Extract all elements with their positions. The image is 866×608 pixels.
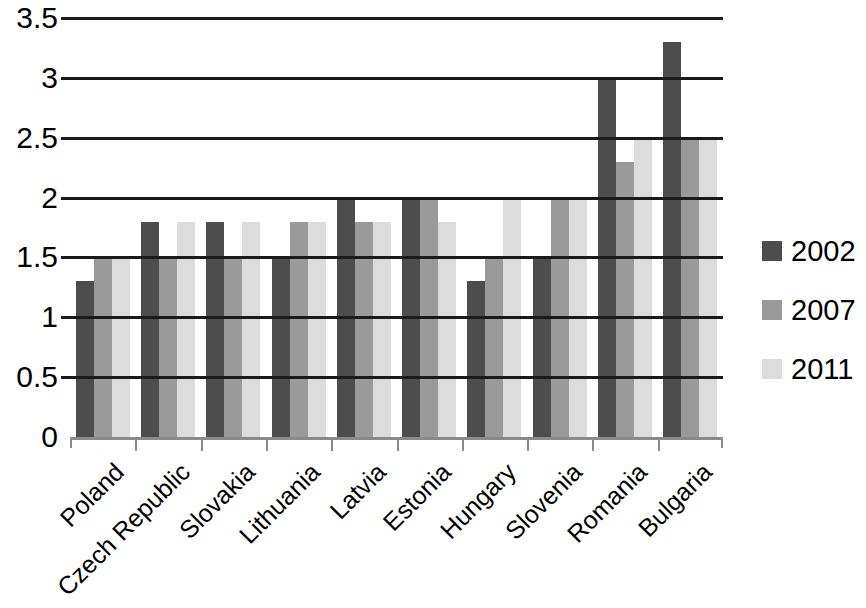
bar[interactable]	[224, 257, 242, 437]
y-axis-tick-label: 0.5	[0, 362, 58, 392]
x-axis-tick	[135, 440, 137, 451]
x-axis-tick	[266, 440, 268, 451]
x-axis-tick	[397, 440, 399, 451]
y-axis-tick-label: 3	[0, 63, 58, 93]
y-axis-tick-label: 2.5	[0, 123, 58, 153]
bar-chart: 3.532.521.510.50 PolandCzech RepublicSlo…	[0, 0, 866, 608]
x-axis-tick	[462, 440, 464, 451]
y-axis-tick-labels: 3.532.521.510.50	[0, 0, 58, 460]
bars-layer	[70, 18, 723, 437]
bar[interactable]	[206, 222, 224, 437]
bar[interactable]	[177, 222, 195, 437]
y-axis-tick-label: 2	[0, 183, 58, 213]
y-axis-tick-label: 1.5	[0, 242, 58, 272]
bar[interactable]	[112, 257, 130, 437]
plot-area	[70, 18, 723, 437]
gridline	[70, 77, 723, 80]
y-axis-tick-mark	[61, 316, 70, 319]
gridline	[70, 316, 723, 319]
legend-item[interactable]: 2007	[762, 295, 866, 325]
legend-item[interactable]: 2011	[762, 354, 866, 384]
x-axis-tick	[201, 440, 203, 451]
y-axis-tick-label: 1	[0, 302, 58, 332]
bar[interactable]	[141, 222, 159, 437]
x-axis-tick	[527, 440, 529, 451]
legend-label: 2011	[791, 354, 853, 384]
bar[interactable]	[485, 257, 503, 437]
bar[interactable]	[308, 222, 326, 437]
bar[interactable]	[467, 281, 485, 437]
bar[interactable]	[438, 222, 456, 437]
bar[interactable]	[272, 257, 290, 437]
bar[interactable]	[616, 162, 634, 437]
y-axis-tick-mark	[61, 17, 70, 20]
y-axis-tick-mark	[61, 376, 70, 379]
legend-item[interactable]: 2002	[762, 236, 866, 266]
bar[interactable]	[681, 138, 699, 437]
bar[interactable]	[699, 138, 717, 437]
bar[interactable]	[533, 257, 551, 437]
legend-label: 2002	[791, 236, 856, 266]
x-axis-right-cap	[721, 437, 723, 448]
y-axis-tick-mark	[61, 77, 70, 80]
x-axis-left-cap	[70, 437, 72, 448]
y-axis-tick-mark	[61, 137, 70, 140]
bar[interactable]	[290, 222, 308, 437]
y-axis-tick-label: 0	[0, 422, 58, 452]
y-axis-tick-mark	[61, 256, 70, 259]
gridline	[70, 137, 723, 140]
y-axis-tick-label: 3.5	[0, 3, 58, 33]
gridline	[70, 17, 723, 20]
gridline	[70, 197, 723, 200]
x-axis-tick	[592, 440, 594, 451]
bar[interactable]	[355, 222, 373, 437]
bar[interactable]	[373, 222, 391, 437]
chart-legend: 200220072011	[762, 236, 866, 413]
bar[interactable]	[634, 138, 652, 437]
bar[interactable]	[159, 257, 177, 437]
legend-swatch-icon	[762, 300, 782, 320]
legend-swatch-icon	[762, 241, 782, 261]
bar[interactable]	[242, 222, 260, 437]
x-axis-tick	[331, 440, 333, 451]
gridline	[70, 256, 723, 259]
bar[interactable]	[94, 257, 112, 437]
bar[interactable]	[76, 281, 94, 437]
legend-label: 2007	[791, 295, 856, 325]
y-axis-tick-mark	[61, 197, 70, 200]
x-axis-tick	[658, 440, 660, 451]
gridline	[70, 376, 723, 379]
legend-swatch-icon	[762, 359, 782, 379]
